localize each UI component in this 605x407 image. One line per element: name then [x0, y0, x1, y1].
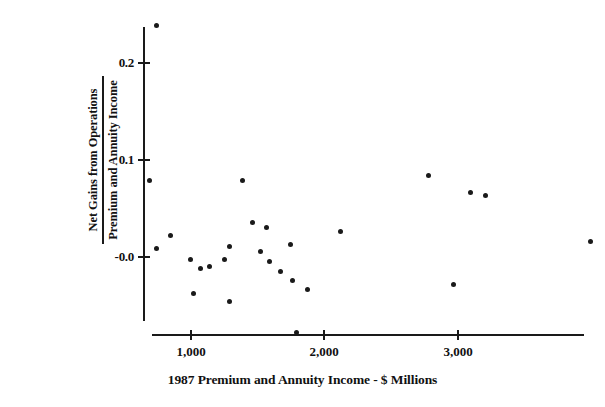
- data-point: [426, 173, 431, 178]
- data-point: [483, 193, 488, 198]
- data-point: [451, 282, 456, 287]
- x-tick-label: 1,000: [151, 344, 231, 360]
- y-axis-label: Net Gains from Operations Premium and An…: [48, 45, 158, 275]
- data-point: [168, 233, 173, 238]
- y-axis-label-numerator: Net Gains from Operations: [86, 85, 102, 236]
- x-tick-label: 2,000: [284, 344, 364, 360]
- data-point: [290, 278, 295, 283]
- data-point: [278, 269, 283, 274]
- data-point: [222, 257, 227, 262]
- data-point: [198, 266, 203, 271]
- data-point: [258, 249, 263, 254]
- x-axis-line: [152, 334, 584, 336]
- data-point: [227, 244, 232, 249]
- data-point: [240, 178, 245, 183]
- data-point: [188, 257, 193, 262]
- data-point: [207, 264, 212, 269]
- x-tick-mark: [457, 330, 459, 340]
- y-axis-label-denominator: Premium and Annuity Income: [104, 76, 121, 243]
- data-point: [588, 239, 593, 244]
- data-point: [267, 259, 272, 264]
- data-point: [154, 23, 159, 28]
- data-point: [154, 246, 159, 251]
- x-axis-label: 1987 Premium and Annuity Income - $ Mill…: [0, 372, 605, 388]
- data-point: [305, 287, 310, 292]
- x-tick-label: 3,000: [418, 344, 498, 360]
- data-point: [250, 220, 255, 225]
- data-point: [338, 229, 343, 234]
- data-point: [288, 242, 293, 247]
- data-point: [468, 190, 473, 195]
- data-point: [264, 225, 269, 230]
- data-point: [227, 299, 232, 304]
- scatter-plot: 0.2 0.1 -0.0 1,000 2,000 3,000 Net Gains…: [0, 0, 605, 407]
- x-tick-mark: [190, 330, 192, 340]
- x-tick-mark: [323, 330, 325, 340]
- data-point: [191, 291, 196, 296]
